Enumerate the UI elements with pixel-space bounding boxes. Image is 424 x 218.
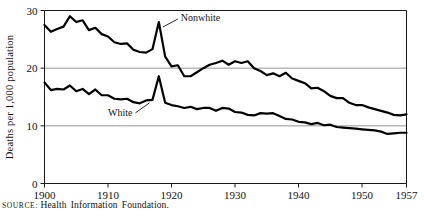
x-tick-label-1920: 1920 bbox=[161, 189, 184, 201]
y-tick-label-30: 30 bbox=[27, 5, 39, 17]
plot-frame bbox=[45, 11, 407, 184]
x-tick-label-1900: 1900 bbox=[34, 189, 57, 201]
y-tick-label-20: 20 bbox=[27, 62, 39, 74]
y-axis-label-text: Deaths per 1,000 population bbox=[4, 34, 15, 159]
y-axis-tick-labels: 0102030 bbox=[27, 5, 39, 190]
gridlines bbox=[45, 68, 407, 126]
x-tick-label-1957: 1957 bbox=[396, 189, 419, 201]
x-tick-label-1930: 1930 bbox=[224, 189, 247, 201]
x-tick-label-1910: 1910 bbox=[97, 189, 120, 201]
nonwhite-leader-line bbox=[163, 19, 178, 27]
series-line-white bbox=[45, 76, 407, 134]
axis-ticks bbox=[41, 11, 407, 188]
nonwhite-series-label: Nonwhite bbox=[181, 12, 221, 23]
source-separator: : bbox=[35, 201, 38, 210]
source-kicker: SOURCE bbox=[2, 201, 35, 210]
y-axis-label: Deaths per 1,000 population bbox=[4, 34, 15, 159]
white-series-label: White bbox=[108, 107, 133, 118]
source-text: Health Information Foundation. bbox=[40, 200, 169, 210]
mortality-line-chart: 0102030 1900191019201930194019501957 Dea… bbox=[0, 0, 424, 218]
y-tick-label-10: 10 bbox=[27, 120, 39, 132]
x-tick-label-1940: 1940 bbox=[288, 189, 311, 201]
x-axis-tick-labels: 1900191019201930194019501957 bbox=[34, 189, 419, 201]
series-line-nonwhite bbox=[45, 16, 407, 115]
white-leader-line bbox=[135, 103, 149, 113]
x-tick-label-1950: 1950 bbox=[351, 189, 374, 201]
source-note: SOURCE: Health Information Foundation. bbox=[2, 200, 169, 210]
data-series bbox=[45, 16, 407, 134]
chart-figure: 0102030 1900191019201930194019501957 Dea… bbox=[0, 0, 424, 218]
